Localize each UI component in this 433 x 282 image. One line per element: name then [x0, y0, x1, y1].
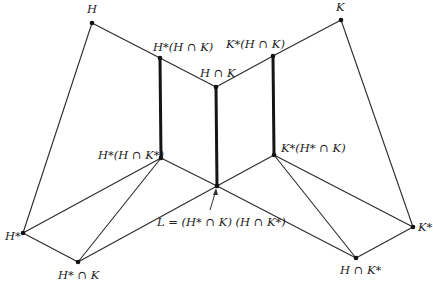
node-H [90, 21, 95, 26]
edge-Ks_HsK-L [217, 155, 274, 186]
label-HstarcapK: H* ∩ K [57, 268, 101, 282]
node-HKs [354, 256, 359, 261]
edge-HsK-Hs_HKs [78, 158, 161, 262]
node-Hs_HK [158, 56, 163, 61]
node-Ks_HsK [272, 153, 277, 158]
thick-edge-Ks_HK-Ks_HsK [273, 56, 274, 155]
edge-Ks_HsK-HKs [274, 155, 356, 258]
node-HK [214, 85, 219, 90]
butterfly-lattice-diagram: H K H*(H ∩ K) H ∩ K K*(H ∩ K) H*(H ∩ K*)… [0, 0, 433, 282]
label-Hstar-HcapK: H*(H ∩ K) [152, 40, 213, 54]
label-Hstar: H* [4, 229, 21, 243]
node-K [339, 18, 344, 23]
node-Ks_HK [271, 54, 276, 59]
label-H: H [86, 2, 98, 16]
node-Hs [21, 231, 26, 236]
thick-edge-HK-L [216, 87, 217, 186]
edge-K-Ks [341, 20, 413, 227]
label-Kstar: K* [417, 220, 433, 234]
label-HcapK: H ∩ K [199, 66, 237, 80]
edge-HKs-Ks [356, 227, 413, 258]
node-L [215, 184, 220, 189]
edge-Hs-HsK [23, 233, 78, 262]
label-K: K [335, 0, 346, 14]
thick-edge-Hs_HK-Hs_HKs [160, 58, 161, 158]
edge-H-Hs_HK [92, 23, 160, 58]
label-Kstar-HcapK: K*(H ∩ K) [225, 37, 285, 51]
edge-Hs_HKs-L [161, 158, 217, 186]
label-Kstar-HstarcapK: K*(H* ∩ K) [280, 141, 346, 155]
l-pointer-arrow [210, 188, 218, 210]
label-L: L = (H* ∩ K) (H ∩ K*) [156, 215, 286, 229]
label-Hstar-HcapKstar: H*(H ∩ K*) [97, 148, 164, 162]
label-HcapKstar: H ∩ K* [339, 263, 382, 277]
node-HsK [76, 260, 81, 265]
node-Ks [411, 225, 416, 230]
